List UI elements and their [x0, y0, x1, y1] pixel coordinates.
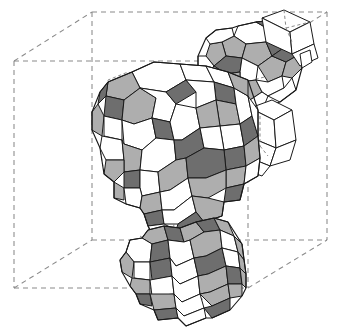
cube-edge-connect-tl: [14, 12, 92, 61]
cube-edge-connect-bl: [14, 240, 92, 288]
bot-f29: [228, 284, 242, 298]
bot-f20: [150, 276, 174, 296]
polyhedra-figure: [0, 0, 342, 329]
main-polyhedron: [92, 62, 260, 240]
figure-root: Chain of rhombicosidodecahedra inside a …: [0, 0, 342, 329]
main-f32: [124, 170, 140, 188]
main-f16: [104, 116, 122, 140]
bottom-polyhedron: [120, 218, 246, 326]
main-f33: [140, 170, 160, 196]
bot-f26: [150, 294, 176, 310]
main-f31: [104, 160, 124, 182]
bot-f13: [134, 262, 150, 280]
bot-f19: [130, 278, 150, 294]
cube-edge-connect-br: [248, 240, 327, 288]
main-f28: [200, 126, 224, 150]
main-f38: [114, 182, 124, 200]
main-f39: [124, 188, 142, 208]
main-f24: [100, 136, 124, 160]
